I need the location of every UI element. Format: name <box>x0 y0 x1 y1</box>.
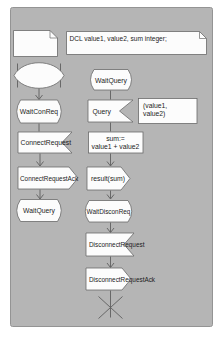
query-args-box: (value1, value2) <box>139 99 198 124</box>
diagram-canvas: DCL value1, value2, sum integer; WaitCon… <box>0 0 220 339</box>
input-connect-request-label: ConnectRequest <box>21 139 72 147</box>
declaration-text-symbol: DCL value1, value2, sum integer; <box>67 32 207 55</box>
state-wait-discon-req-label: WaitDisconReq <box>87 208 131 216</box>
output-connect-request-ack-label: ConnectRequestAck <box>20 175 79 183</box>
task-sum-line1: sum:= <box>106 135 125 142</box>
task-sum-line2: value1 + value2 <box>92 143 140 150</box>
task-sum-box: sum:= value1 + value2 <box>89 132 144 153</box>
output-result-label: result(sum) <box>91 175 125 183</box>
declaration-text: DCL value1, value2, sum integer; <box>70 35 167 43</box>
query-args-line2: value2) <box>143 110 165 118</box>
state-wait-query-right-label: WaitQuery <box>95 77 127 85</box>
state-wait-con-req-label: WaitConReq <box>20 108 58 116</box>
output-disconnect-request-ack-label: DisconnectRequestAck <box>89 276 156 284</box>
state-wait-query-left-label: WaitQuery <box>23 207 55 215</box>
query-args-line1: (value1, <box>143 102 167 110</box>
input-disconnect-request-label: DisconnectRequest <box>89 241 145 249</box>
input-query-label: Query <box>93 108 112 116</box>
empty-text-symbol <box>14 31 58 57</box>
